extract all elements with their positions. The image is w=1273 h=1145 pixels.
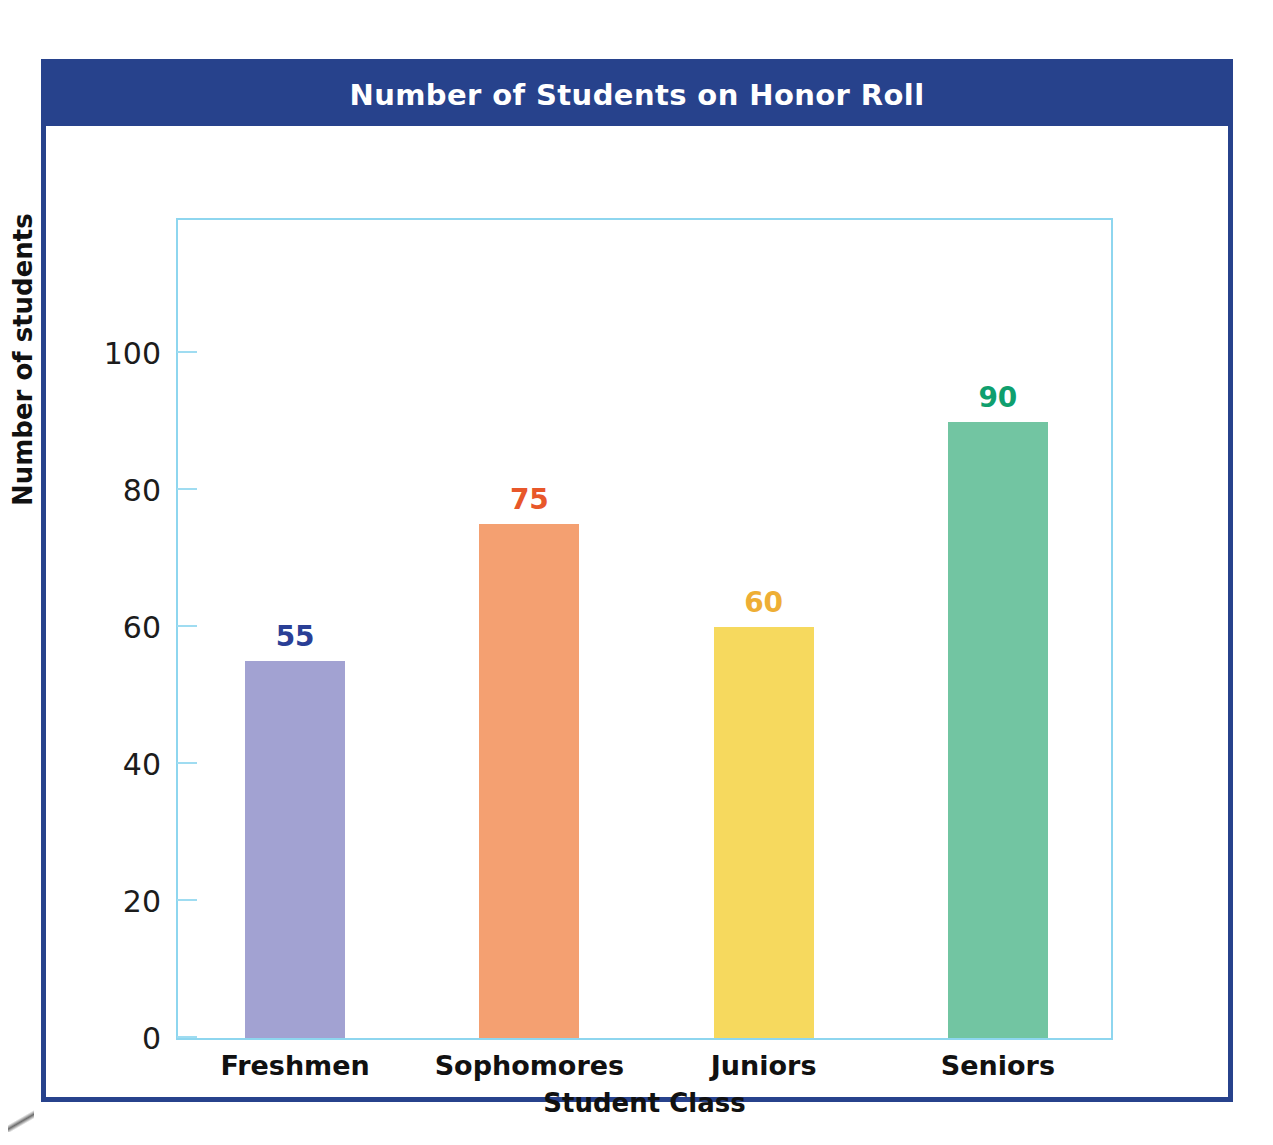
y-axis-tick: 60	[177, 625, 197, 627]
y-axis-tick-label: 20	[123, 884, 161, 919]
x-axis-title: Student Class	[176, 1088, 1113, 1118]
y-axis-tick: 80	[177, 488, 197, 490]
y-axis-tick-label: 0	[142, 1021, 161, 1056]
y-axis-title: Number of students	[8, 213, 38, 506]
y-axis-tick-label: 40	[123, 747, 161, 782]
x-axis-category-label: Freshmen	[220, 1050, 369, 1081]
bar-seniors: 90Seniors	[948, 422, 1048, 1039]
plot-area: 02040608010055Freshmen75Sophomores60Juni…	[176, 218, 1113, 1040]
y-axis-tick: 0	[177, 1036, 197, 1038]
bar-value-label: 55	[276, 620, 315, 653]
bar-value-label: 75	[510, 483, 549, 516]
chart-title-banner: Number of Students on Honor Roll	[46, 64, 1228, 126]
y-axis-tick: 40	[177, 762, 197, 764]
chart-body: 02040608010055Freshmen75Sophomores60Juni…	[46, 126, 1228, 1097]
y-axis-tick-label: 60	[123, 610, 161, 645]
y-axis-tick: 20	[177, 899, 197, 901]
x-axis-category-label: Sophomores	[435, 1050, 624, 1081]
y-axis-tick-label: 80	[123, 473, 161, 508]
bar-freshmen: 55Freshmen	[245, 661, 345, 1038]
x-axis-category-label: Juniors	[711, 1050, 817, 1081]
scan-artifact	[8, 1110, 34, 1132]
y-axis-tick-label: 100	[104, 336, 161, 371]
y-axis-tick: 100	[177, 351, 197, 353]
bar-value-label: 90	[978, 381, 1017, 414]
x-axis-category-label: Seniors	[941, 1050, 1055, 1081]
bar-juniors: 60Juniors	[714, 627, 814, 1038]
chart-card: Number of Students on Honor Roll 0204060…	[41, 59, 1233, 1102]
bar-sophomores: 75Sophomores	[479, 524, 579, 1038]
chart-title: Number of Students on Honor Roll	[349, 78, 924, 112]
bar-value-label: 60	[744, 586, 783, 619]
